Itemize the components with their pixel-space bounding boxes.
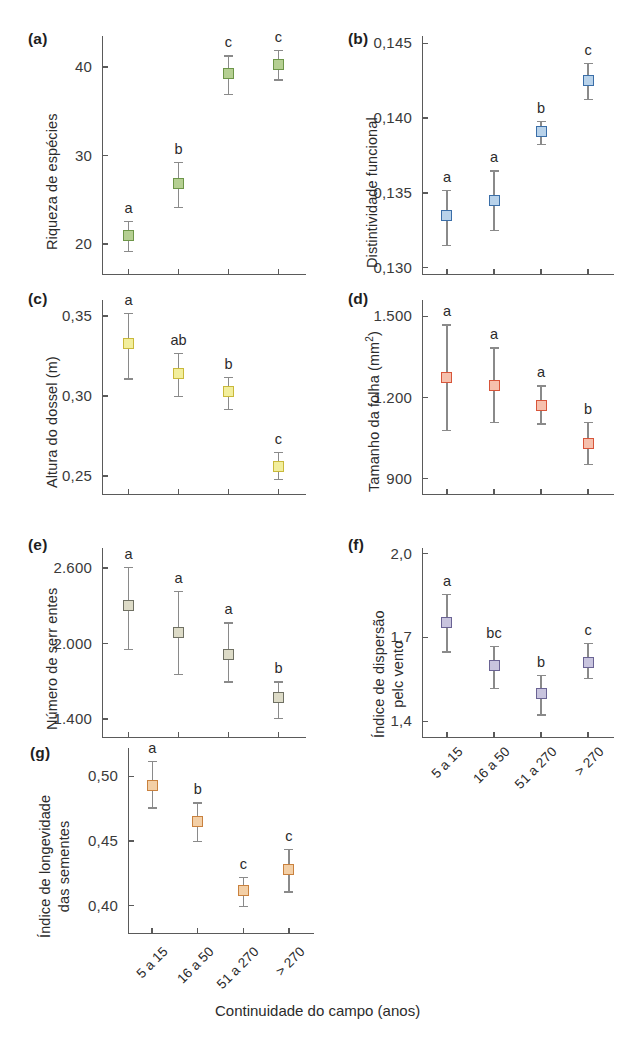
panel-b: 0,1450,1400,1350,130aabc: [422, 36, 614, 275]
error-bar-cap-bottom: [537, 144, 546, 145]
error-bar-cap-top: [284, 849, 293, 850]
data-marker: [489, 195, 500, 206]
panel-g-ytick-label: 0,50: [38, 768, 118, 783]
error-bar-cap-top: [442, 594, 451, 595]
error-bar-cap-bottom: [584, 678, 593, 679]
panel-d-y-title: Tamanho da folha (mm2): [364, 331, 382, 492]
data-marker: [192, 816, 203, 827]
error-bar-cap-top: [537, 385, 546, 386]
error-bar-cap-top: [124, 313, 133, 314]
data-marker: [123, 338, 134, 349]
significance-letter: b: [584, 402, 592, 416]
panel-c-xtick: [278, 489, 279, 495]
data-marker: [173, 627, 184, 638]
panel-f-xtick: [446, 732, 447, 738]
data-marker: [173, 368, 184, 379]
significance-letter: c: [225, 35, 232, 49]
error-bar-cap-bottom: [224, 681, 233, 682]
x-axis-title: Continuidade do campo (anos): [215, 1002, 420, 1019]
significance-letter: a: [490, 327, 498, 341]
data-marker: [273, 692, 284, 703]
panel-e-ytick: [102, 643, 108, 644]
panel-f-ytick: [422, 721, 428, 722]
error-bar-cap-bottom: [284, 891, 293, 892]
significance-letter: ab: [170, 333, 186, 347]
panel-f-x-axis: [422, 737, 614, 738]
panel-c: 0,350,300,25aabbc: [102, 300, 306, 495]
error-bar-cap-top: [490, 170, 499, 171]
data-marker: [583, 657, 594, 668]
error-bar-cap-top: [442, 324, 451, 325]
panel-g-ytick: [128, 776, 134, 777]
panel-a-ytick-label: 40: [12, 59, 92, 74]
significance-letter: a: [537, 365, 545, 379]
panel-g-xtick: [243, 928, 244, 934]
panel-a-xtick: [228, 269, 229, 275]
data-marker: [273, 461, 284, 472]
panel-e-letter: (e): [28, 536, 48, 554]
significance-letter: b: [537, 655, 545, 669]
error-bar-cap-bottom: [174, 207, 183, 208]
panel-g-ytick: [128, 840, 134, 841]
panel-b-ytick: [422, 192, 428, 193]
panel-a-letter: (a): [28, 30, 48, 48]
panel-c-y-axis: [102, 300, 103, 495]
error-bar-cap-bottom: [148, 807, 157, 808]
significance-letter: b: [224, 357, 232, 371]
data-marker: [441, 210, 452, 221]
panel-g-xtick: [197, 928, 198, 934]
panel-a-x-axis: [102, 274, 306, 275]
error-bar-cap-top: [224, 377, 233, 378]
significance-letter: a: [224, 602, 232, 616]
error-bar-cap-top: [174, 162, 183, 163]
significance-letter: a: [174, 571, 182, 585]
error-bar-cap-top: [537, 675, 546, 676]
data-marker: [583, 75, 594, 86]
panel-f-y-title: Índice de dispersão pelc vento: [370, 610, 408, 738]
significance-letter: c: [275, 432, 282, 446]
panel-b-ytick: [422, 267, 428, 268]
data-marker: [238, 885, 249, 896]
panel-a-y-title: Riqueza de espécies: [44, 113, 60, 250]
data-marker: [441, 372, 452, 383]
data-marker: [147, 780, 158, 791]
error-bar-cap-bottom: [537, 423, 546, 424]
error-bar-cap-bottom: [174, 674, 183, 675]
panel-g-x-axis: [128, 933, 314, 934]
error-bar-cap-bottom: [224, 409, 233, 410]
panel-b-xtick: [587, 269, 588, 275]
panel-a-xtick: [128, 269, 129, 275]
panel-f-ytick-label: 2,0: [332, 546, 412, 561]
panel-e-ytick: [102, 718, 108, 719]
error-bar-cap-bottom: [537, 714, 546, 715]
panel-f-y-axis: [422, 548, 423, 738]
error-bar-cap-top: [274, 681, 283, 682]
panel-b-letter: (b): [348, 30, 368, 48]
panel-f-xtick: [587, 732, 588, 738]
panel-e-xtick: [128, 732, 129, 738]
panel-d-ytick: [422, 397, 428, 398]
panel-c-x-axis: [102, 494, 306, 495]
panel-a-xtick: [178, 269, 179, 275]
error-bar-cap-top: [124, 567, 133, 568]
panel-g-xtick: [288, 928, 289, 934]
error-bar-cap-bottom: [124, 649, 133, 650]
panel-b-ytick-label: 0,145: [332, 35, 412, 50]
panel-f-ytick: [422, 553, 428, 554]
data-marker: [223, 386, 234, 397]
panel-b-ytick: [422, 117, 428, 118]
panel-e-ytick-label: 2.600: [12, 560, 92, 575]
panel-b-y-axis: [422, 36, 423, 275]
panel-f: 2,01,71,4abcbc: [422, 548, 614, 738]
significance-letter: a: [124, 293, 132, 307]
panel-d-ytick-label: 1.500: [332, 308, 412, 323]
data-marker: [123, 600, 134, 611]
panel-c-xtick: [128, 489, 129, 495]
panel-b-xtick: [540, 269, 541, 275]
error-bar-cap-top: [193, 802, 202, 803]
data-marker: [283, 864, 294, 875]
error-bar-cap-bottom: [274, 718, 283, 719]
panel-g: 0,500,450,40abcc: [128, 748, 314, 934]
panel-e-y-title: Número de serr entes: [44, 588, 60, 730]
error-bar-cap-bottom: [124, 378, 133, 379]
